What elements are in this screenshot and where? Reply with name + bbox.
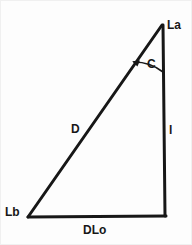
- vertex-label-lb: Lb: [5, 206, 20, 218]
- triangle-drawing: [0, 0, 192, 245]
- side-horizontal-DLo: [28, 216, 166, 217]
- vertex-label-la: La: [167, 19, 181, 31]
- side-vertical-l: [163, 25, 165, 216]
- side-label-dlo: DLo: [83, 224, 106, 236]
- angle-label-c: C: [147, 58, 156, 70]
- side-label-l: l: [169, 124, 172, 136]
- side-label-d: D: [71, 123, 80, 135]
- geometry-diagram: La C D l Lb DLo: [0, 0, 192, 245]
- side-hypotenuse-D: [28, 25, 162, 217]
